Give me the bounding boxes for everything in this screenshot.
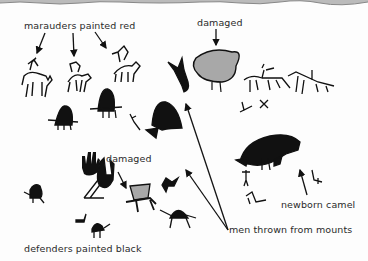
horse-riders — [244, 64, 334, 94]
damaged-figure-top — [193, 50, 239, 82]
label-damaged-mid: damaged — [106, 153, 152, 164]
label-men-thrown: men thrown from mounts — [229, 224, 352, 235]
hand-print — [82, 152, 100, 176]
label-newborn-camel: newborn camel — [281, 199, 355, 210]
label-marauders: marauders painted red — [24, 20, 135, 31]
mark-lines — [84, 180, 104, 198]
figures-layer — [0, 0, 368, 261]
marauder-arrows — [37, 29, 307, 230]
marauder-figures — [22, 46, 140, 97]
label-defenders: defenders painted black — [24, 243, 141, 254]
label-damaged-top: damaged — [197, 17, 243, 28]
defender-figures — [24, 58, 300, 238]
rock-art-diagram: marauders painted red damaged damaged ne… — [0, 0, 368, 261]
